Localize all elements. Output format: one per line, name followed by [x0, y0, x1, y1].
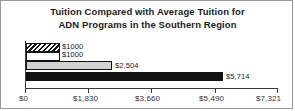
chart-container: Tuition Compared with Average Tuition fo… — [0, 0, 293, 109]
bar-4-black[interactable] — [26, 72, 223, 81]
bar-4-value-label: $5,714 — [226, 73, 250, 81]
x-axis-tick-3 — [215, 89, 216, 93]
chart-title-line-1: Tuition Compared with Average Tuition fo… — [1, 5, 294, 18]
x-tick-label-2: $3,660 — [135, 94, 160, 103]
bar-2-white[interactable] — [26, 52, 60, 61]
bar-2-value-label: $1000 — [62, 51, 83, 59]
bar-3-value-label: $2,504 — [115, 62, 139, 70]
x-axis-tick-4 — [277, 89, 278, 93]
bar-3-gray[interactable] — [26, 61, 112, 70]
plot-area: $1000 $1000 $2,504 $5,714 — [25, 41, 278, 88]
x-axis-tick-2 — [151, 89, 152, 93]
chart-title-line-2: ADN Programs in the Southern Region — [1, 18, 294, 31]
x-tick-label-1: $1,830 — [73, 94, 98, 103]
x-axis-tick-1 — [88, 89, 89, 93]
x-tick-label-0: $0 — [19, 94, 28, 103]
x-tick-label-3: $5,490 — [199, 94, 224, 103]
x-axis-tick-0 — [25, 89, 26, 93]
x-tick-label-4: $7,321 — [256, 94, 281, 103]
bar-1-hatched[interactable] — [26, 43, 60, 52]
chart-title: Tuition Compared with Average Tuition fo… — [1, 5, 294, 31]
